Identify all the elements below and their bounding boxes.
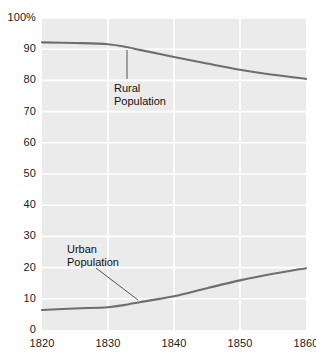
y-axis-tick-label: 100% bbox=[0, 11, 36, 23]
y-axis-tick-label: 40 bbox=[0, 198, 36, 210]
y-axis-tick-label: 20 bbox=[0, 261, 36, 273]
x-axis-tick-label: 1860 bbox=[284, 337, 316, 349]
urban-population-annotation: Urban Population bbox=[67, 243, 119, 269]
y-axis-tick-label: 90 bbox=[0, 42, 36, 54]
urban-annotation-line-1: Urban bbox=[67, 243, 119, 256]
y-axis-tick-label: 70 bbox=[0, 105, 36, 117]
y-axis-tick-label: 50 bbox=[0, 167, 36, 179]
x-axis-tick-label: 1850 bbox=[218, 337, 262, 349]
y-axis-tick-label: 80 bbox=[0, 73, 36, 85]
y-axis-tick-label: 30 bbox=[0, 229, 36, 241]
x-axis-tick-label: 1820 bbox=[20, 337, 64, 349]
x-axis-tick-label: 1840 bbox=[152, 337, 196, 349]
x-axis-tick-label: 1830 bbox=[86, 337, 130, 349]
urban-annotation-line-2: Population bbox=[67, 256, 119, 269]
y-axis-tick-label: 0 bbox=[0, 323, 36, 335]
rural-annotation-line-1: Rural bbox=[114, 82, 166, 95]
chart-plot-svg bbox=[0, 0, 316, 364]
chart-container: 0102030405060708090100% 1820183018401850… bbox=[0, 0, 316, 364]
y-axis-tick-label: 10 bbox=[0, 292, 36, 304]
y-axis-tick-label: 60 bbox=[0, 136, 36, 148]
rural-population-annotation: Rural Population bbox=[114, 82, 166, 108]
rural-annotation-line-2: Population bbox=[114, 95, 166, 108]
